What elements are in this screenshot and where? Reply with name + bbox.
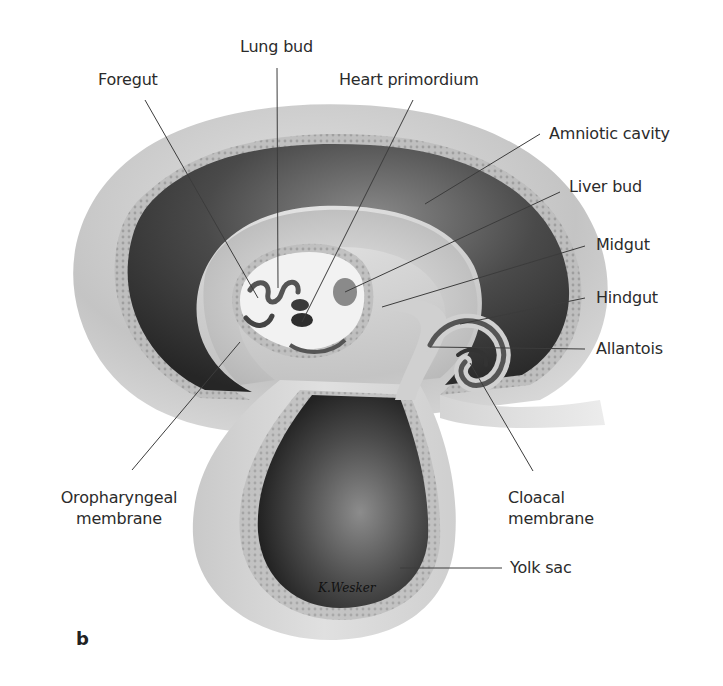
label-amniotic-cavity: Amniotic cavity — [549, 123, 670, 144]
label-yolk-sac: Yolk sac — [510, 557, 572, 578]
label-oropharyngeal-line2: membrane — [44, 508, 194, 529]
artist-signature: K.Wesker — [317, 581, 377, 595]
label-liver-bud: Liver bud — [569, 176, 642, 197]
label-oropharyngeal-membrane: Oropharyngeal membrane — [44, 487, 194, 529]
label-midgut: Midgut — [596, 234, 650, 255]
label-lung-bud: Lung bud — [240, 36, 313, 57]
label-allantois: Allantois — [596, 338, 663, 359]
embryo-sagittal-diagram: K.Wesker Lung bud Foregut Heart primordi… — [0, 0, 723, 686]
label-foregut: Foregut — [98, 69, 158, 90]
label-cloacal-line2: membrane — [508, 508, 594, 529]
label-heart-primordium: Heart primordium — [339, 69, 479, 90]
label-hindgut: Hindgut — [596, 287, 658, 308]
label-oropharyngeal-line1: Oropharyngeal — [44, 487, 194, 508]
label-cloacal-membrane: Cloacal membrane — [508, 487, 594, 529]
label-cloacal-line1: Cloacal — [508, 487, 594, 508]
panel-letter: b — [76, 628, 89, 649]
